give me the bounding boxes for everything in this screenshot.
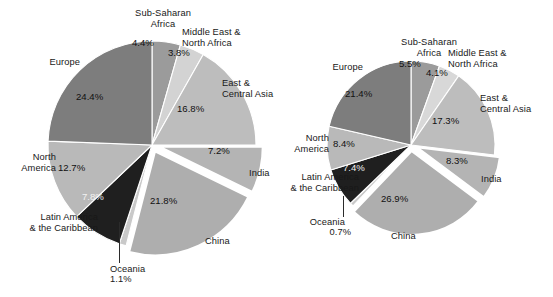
label-oceania-right: Oceania [283,217,345,228]
label-middle-east-north-africa-right: Middle East & North Africa [448,48,548,69]
oceania-leader-line-left [119,222,120,263]
label-china-right: China [391,231,437,242]
label-latin-america-left: Latin America & the Caribbean [2,212,98,233]
label-europe-right: Europe [295,62,363,73]
percent-sub-saharan-africa-right: 5.5% [399,59,421,70]
percent-europe-left: 24.4% [76,92,103,103]
label-latin-america-right: Latin America & the Caribbean [263,172,359,193]
percent-oceania-left: 1.1% [110,274,158,285]
label-north-america-right: North America [273,133,329,154]
percent-oceania-right: 0.7% [289,227,351,238]
percent-latin-america-left: 7.8% [82,192,104,203]
label-east-central-asia-right: East & Central Asia [480,93,553,114]
two-pie-chart-figure: Europe Sub-Saharan Africa Middle East & … [0,0,553,297]
label-europe-left: Europe [2,57,80,68]
percent-middle-east-north-africa-left: 3.8% [168,48,190,59]
label-oceania-left: Oceania [110,264,172,275]
percent-europe-right: 21.4% [345,89,372,100]
percent-latin-america-right: 7.4% [343,163,365,174]
percent-north-america-right: 8.4% [333,139,355,150]
label-india-right: India [481,174,527,185]
label-sub-saharan-africa-left: Sub-Saharan Africa [118,8,208,29]
percent-china-right: 26.9% [381,194,408,205]
percent-middle-east-north-africa-right: 4.1% [426,68,448,79]
pie-chart-left: Europe Sub-Saharan Africa Middle East & … [0,0,290,297]
percent-china-left: 21.8% [150,196,177,207]
label-north-america-left: North America [0,152,56,173]
percent-sub-saharan-africa-left: 4.4% [132,38,154,49]
percent-india-left: 7.2% [208,146,230,157]
oceania-leader-line-right [343,196,344,217]
pie-chart-right: Europe Sub-Saharan Africa Middle East & … [263,0,553,297]
label-china-left: China [205,236,251,247]
percent-india-right: 8.3% [446,156,468,167]
percent-north-america-left: 12.7% [58,163,85,174]
percent-east-central-asia-right: 17.3% [432,116,459,127]
percent-east-central-asia-left: 16.8% [177,104,204,115]
